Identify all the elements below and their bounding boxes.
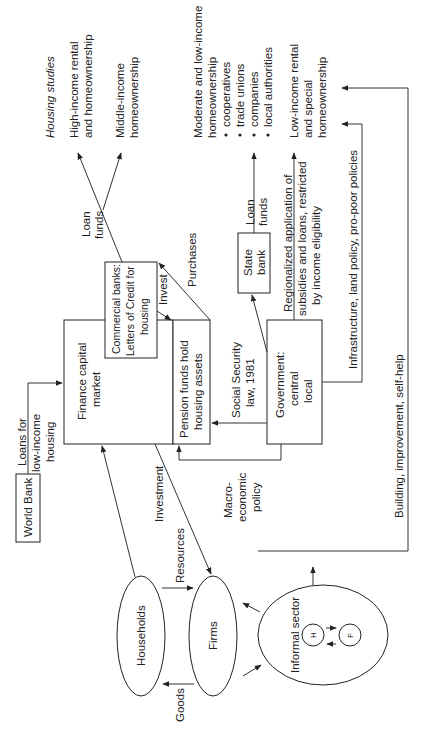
svg-text:funds: funds — [93, 211, 105, 239]
svg-text:Loan: Loan — [80, 211, 92, 237]
infrastructure-label: Infrastructure, land policy, pro-poor po… — [347, 150, 359, 369]
outcome-middle-income: Middle-income homeownership — [114, 57, 140, 138]
svg-text:by income eligibility: by income eligibility — [310, 206, 322, 305]
svg-text:and special: and special — [302, 80, 314, 138]
svg-text:subsidies and loans, restricte: subsidies and loans, restricted — [296, 161, 308, 316]
svg-text:High-income rental: High-income rental — [68, 41, 80, 138]
svg-text:and homeownership: and homeownership — [82, 34, 94, 138]
svg-text:State: State — [242, 249, 254, 276]
households-to-finance-arrow — [102, 446, 135, 577]
bullet-icon — [252, 133, 255, 136]
state-bank-label: State bank — [242, 249, 267, 276]
svg-text:law, 1981: law, 1981 — [244, 358, 256, 407]
regionalized-label: Regionalized application of subsidies an… — [282, 161, 322, 316]
macro-policy-label: Macro- economic policy — [222, 473, 262, 522]
svg-text:Middle-income: Middle-income — [114, 63, 126, 138]
purchases-label: Purchases — [186, 232, 198, 287]
investment-label: Investment — [153, 465, 165, 522]
outcome-high-income: High-income rental and homeownership — [68, 34, 94, 138]
svg-text:Loans for: Loans for — [16, 418, 28, 466]
informal-h-label: H — [309, 632, 318, 638]
housing-finance-diagram: Housing studies High-income rental and h… — [0, 0, 433, 737]
svg-text:Pension funds hold: Pension funds hold — [178, 340, 190, 438]
svg-text:trade unions: trade unions — [234, 63, 246, 127]
svg-text:housing: housing — [44, 422, 56, 462]
outcome-low-income: Low-income rental and special homeowners… — [288, 44, 328, 138]
informal-f-label: F — [346, 633, 355, 638]
loan-funds-arrows — [78, 153, 122, 262]
svg-text:Social Security: Social Security — [230, 342, 242, 418]
housing-studies-heading: Housing studies — [44, 56, 56, 138]
svg-text:economic: economic — [236, 473, 248, 522]
svg-text:low-income: low-income — [30, 414, 42, 472]
svg-text:housing assets: housing assets — [192, 353, 204, 430]
svg-text:Finance capital: Finance capital — [76, 343, 88, 420]
svg-text:Moderate and low-income: Moderate and low-income — [192, 6, 204, 138]
social-security-label: Social Security law, 1981 — [230, 342, 256, 418]
svg-text:Macro-: Macro- — [222, 482, 234, 518]
building-label: Building, improvement, self-help — [393, 354, 405, 518]
resources-label: Resources — [174, 528, 186, 583]
svg-text:Low-income rental: Low-income rental — [288, 44, 300, 138]
outcome-moderate-low-income: Moderate and low-income homeownership co… — [192, 6, 274, 138]
svg-text:homeownership: homeownership — [316, 57, 328, 138]
loan-funds-label-2: Loan funds — [244, 198, 269, 226]
svg-text:local: local — [302, 379, 314, 403]
bullet-icon — [238, 133, 241, 136]
svg-text:homeownership: homeownership — [128, 57, 140, 138]
invest-label: Invest — [157, 274, 169, 305]
svg-text:Commercial banks:: Commercial banks: — [110, 264, 122, 354]
svg-text:Letters of Credit for: Letters of Credit for — [124, 266, 136, 356]
svg-text:bank: bank — [255, 250, 267, 275]
world-bank-label: World Bank — [22, 478, 34, 537]
svg-text:local authorities: local authorities — [262, 47, 274, 127]
svg-text:Loan: Loan — [244, 199, 256, 225]
svg-text:central: central — [288, 371, 300, 406]
informal-sector-label: Informal sector — [289, 597, 301, 673]
macro-policy-arrow — [179, 444, 281, 460]
svg-text:funds: funds — [257, 198, 269, 226]
svg-text:Housing studies: Housing studies — [44, 56, 56, 138]
informal-to-firms-arrow — [243, 603, 260, 612]
svg-text:market: market — [90, 371, 102, 407]
goods-label: Goods — [174, 688, 186, 722]
svg-text:cooperatives: cooperatives — [220, 62, 232, 127]
svg-text:companies: companies — [248, 71, 260, 127]
loan-funds-label-1: Loan funds — [80, 211, 105, 239]
svg-text:policy: policy — [250, 482, 262, 512]
invest-arrow — [157, 311, 171, 320]
bullet-icon — [224, 133, 227, 136]
households-label: Households — [135, 605, 147, 666]
world-bank-loans-label: Loans for low-income housing — [16, 414, 56, 472]
svg-text:Government:: Government: — [274, 352, 286, 418]
firms-to-informal-arrow — [243, 665, 261, 676]
svg-text:homeownership: homeownership — [206, 57, 218, 138]
svg-text:housing: housing — [138, 298, 150, 335]
svg-text:Regionalized application of: Regionalized application of — [282, 174, 294, 312]
firms-label: Firms — [207, 621, 219, 650]
bullet-icon — [266, 133, 269, 136]
government-to-state-bank-arrow — [252, 295, 267, 352]
